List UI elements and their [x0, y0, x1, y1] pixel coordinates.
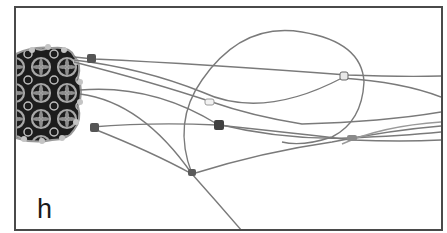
strand-4: [80, 89, 441, 138]
strand-5: [80, 94, 441, 174]
bead-5: [205, 99, 214, 105]
strand-3: [74, 62, 441, 124]
strand-1: [74, 57, 441, 76]
figure-panel-frame: h: [14, 6, 443, 231]
bead-7: [347, 135, 357, 141]
bead-3: [340, 72, 348, 80]
bead-4: [214, 120, 224, 130]
bead-6: [188, 169, 196, 176]
panel-label: h: [37, 196, 52, 223]
filigree-pendant: [16, 44, 83, 144]
bead-2: [90, 123, 99, 132]
jewelry-photo: [16, 8, 441, 229]
strands: [74, 31, 441, 229]
strand-2: [74, 60, 441, 103]
bead-1: [87, 54, 96, 63]
